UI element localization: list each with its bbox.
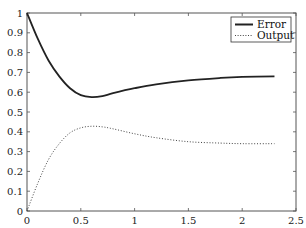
x-tick-label: 1.5 — [180, 215, 196, 226]
y-tick-label: 1 — [17, 8, 23, 19]
x-tick-label: 2.5 — [288, 215, 304, 226]
series-line-output — [27, 126, 274, 211]
x-axis-ticks: 00.511.522.5 — [24, 13, 304, 226]
series-layer — [27, 13, 274, 211]
y-tick-label: 0 — [17, 206, 23, 217]
y-tick-label: 0.2 — [7, 166, 23, 177]
x-tick-label: 0.5 — [73, 215, 89, 226]
y-tick-label: 0.6 — [7, 87, 23, 98]
x-tick-label: 1 — [131, 215, 137, 226]
y-tick-label: 0.8 — [7, 47, 23, 58]
y-tick-label: 0.9 — [7, 27, 23, 38]
legend: Error Output — [231, 17, 295, 42]
y-tick-label: 0.7 — [7, 67, 23, 78]
y-tick-label: 0.4 — [7, 126, 23, 137]
plot-frame — [27, 13, 296, 211]
y-tick-label: 0.5 — [7, 107, 23, 118]
x-tick-label: 0 — [24, 215, 30, 226]
y-tick-label: 0.3 — [7, 146, 23, 157]
plot-area-border — [27, 13, 296, 211]
line-chart: 00.10.20.30.40.50.60.70.80.91 00.511.522… — [0, 0, 306, 228]
legend-label-output: Output — [257, 29, 295, 41]
y-tick-label: 0.1 — [7, 186, 23, 197]
x-tick-label: 2 — [239, 215, 245, 226]
